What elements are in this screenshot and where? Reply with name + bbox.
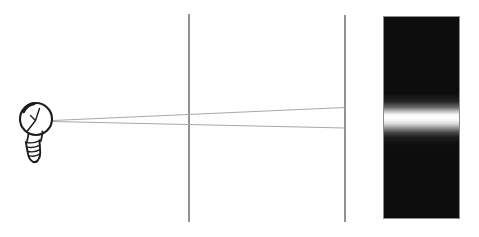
light-bulb-icon — [20, 103, 52, 163]
interference-experiment-diagram — [0, 0, 479, 237]
light-ray-upper — [53, 108, 346, 121]
viewing-screen — [383, 16, 460, 219]
bulb-screw-base — [26, 140, 43, 163]
light-ray-lower — [53, 122, 346, 129]
